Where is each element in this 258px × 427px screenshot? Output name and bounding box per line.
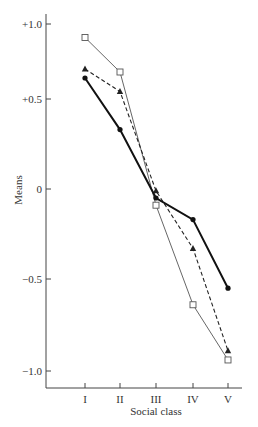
x-tick-label: II — [116, 393, 124, 405]
series-line — [85, 78, 228, 288]
x-tick-label: V — [224, 393, 232, 405]
x-tick-label: I — [83, 393, 87, 405]
x-tick-label: IV — [187, 393, 199, 405]
square-marker-icon — [225, 357, 231, 363]
y-tick-label: 0 — [37, 183, 43, 195]
triangle-marker-icon — [117, 88, 123, 94]
square-marker-icon — [190, 302, 196, 308]
x-tick-label: III — [151, 393, 162, 405]
square-marker-icon — [153, 202, 159, 208]
circle-marker-icon — [190, 217, 195, 222]
series-filled-circle — [82, 75, 230, 290]
circle-marker-icon — [117, 127, 122, 132]
triangle-marker-icon — [190, 245, 196, 251]
circle-marker-icon — [153, 195, 158, 200]
square-marker-icon — [117, 69, 123, 75]
y-tick-label: +0.5 — [22, 93, 42, 105]
triangle-marker-icon — [225, 347, 231, 353]
y-tick-label: −1.0 — [22, 365, 42, 377]
series-group — [82, 35, 231, 363]
triangle-marker-icon — [82, 66, 88, 72]
y-tick-label: +1.0 — [22, 18, 42, 30]
y-tick-label: −0.5 — [22, 273, 42, 285]
x-axis-label: Social class — [130, 405, 182, 417]
line-chart: +1.0+0.50−0.5−1.0IIIIIIIVV Means Social … — [0, 0, 258, 427]
circle-marker-icon — [82, 75, 87, 80]
axes: +1.0+0.50−0.5−1.0IIIIIIIVV — [22, 14, 242, 405]
y-axis-label: Means — [12, 175, 24, 204]
circle-marker-icon — [225, 286, 230, 291]
series-filled-triangle — [82, 66, 231, 354]
square-marker-icon — [82, 35, 88, 41]
